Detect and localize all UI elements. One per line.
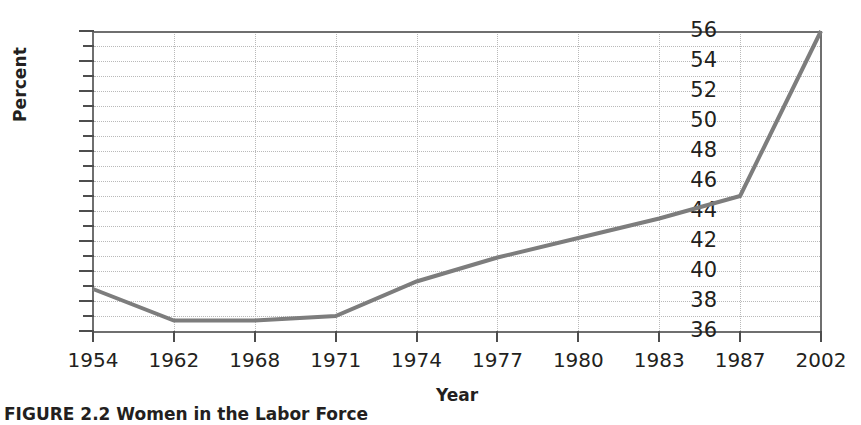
x-tick-label: 1954 xyxy=(48,349,138,371)
x-tick-label: 1962 xyxy=(129,349,219,371)
x-tick-label: 1971 xyxy=(291,349,381,371)
x-tick-label: 1987 xyxy=(695,349,785,371)
x-tick-label: 1980 xyxy=(533,349,623,371)
series-line-percent xyxy=(92,31,822,333)
x-axis-title: Year xyxy=(92,385,822,405)
x-tick-label: 1977 xyxy=(452,349,542,371)
x-tick-label: 1968 xyxy=(210,349,300,371)
x-tick-label: 1974 xyxy=(372,349,462,371)
plot-area: 3638404244464850525456 19541962196819711… xyxy=(92,31,822,333)
x-tick-label: 1983 xyxy=(614,349,704,371)
figure-container: Percent 3638404244464850525456 195419621… xyxy=(0,0,861,425)
figure-caption: FIGURE 2.2 Women in the Labor Force xyxy=(4,404,857,424)
x-tick-label: 2002 xyxy=(776,349,861,371)
y-axis-title: Percent xyxy=(10,0,32,122)
